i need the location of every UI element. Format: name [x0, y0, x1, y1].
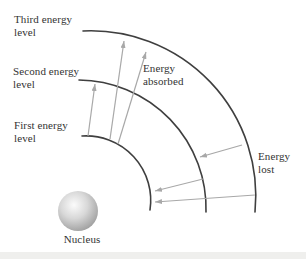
third-energy-level-arc	[83, 31, 256, 212]
energy-absorbed-arrow-1-to-3-left	[110, 41, 124, 139]
energy-lost-label: Energy lost	[258, 150, 290, 176]
energy-lost-arrow-3-to-2	[200, 145, 242, 157]
second-energy-level-arc	[79, 80, 206, 212]
energy-lost-arrow-2-to-1	[155, 179, 203, 191]
page-edge-shading	[0, 252, 306, 259]
nucleus-sphere	[58, 191, 98, 231]
energy-level-diagram: Third energy level Second energy level F…	[0, 0, 306, 259]
second-energy-level-label: Second energy level	[13, 65, 79, 91]
energy-absorbed-arrow-1-to-2	[88, 84, 95, 136]
first-energy-level-label: First energy level	[14, 119, 68, 145]
third-energy-level-label: Third energy level	[14, 13, 72, 39]
nucleus-label: Nucleus	[59, 233, 105, 246]
energy-absorbed-label: Energy absorbed	[143, 62, 184, 88]
